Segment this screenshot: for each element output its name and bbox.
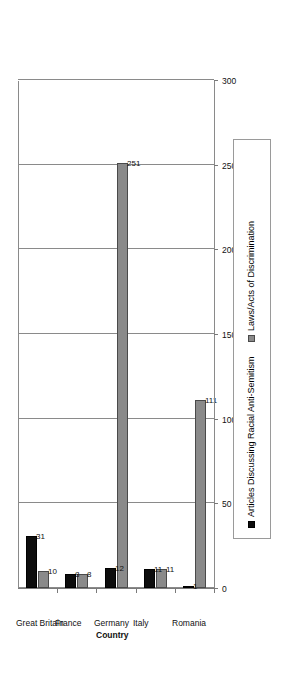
value-tick-mark [214,80,218,81]
value-tick-label: 0 [222,585,227,594]
category-tick [57,588,58,593]
category-label-france: France [55,619,81,628]
bar-germany-series-0 [105,568,116,588]
chart-legend: Articles Discussing Racial Anti-Semitism… [233,139,271,539]
bar-value-label: 251 [127,160,140,168]
legend-item-1[interactable]: Laws/Acts of Discrimination [246,221,256,342]
bar-value-label: 31 [36,533,45,541]
legend-item-0[interactable]: Articles Discussing Racial Anti-Semitism [246,356,256,528]
legend-swatch-icon [248,521,255,528]
bar-value-label: 8 [87,571,91,579]
bar-value-label: 1 [193,583,197,591]
legend-label: Laws/Acts of Discrimination [246,221,256,331]
category-label-germany: Germany [94,619,129,628]
legend-swatch-icon [248,335,255,342]
bar-value-label: 8 [75,571,79,579]
value-tick-mark [214,588,218,589]
bar-value-label: 11 [166,566,174,574]
category-label-italy: Italy [133,619,149,628]
value-tick-label: 300 [222,77,236,86]
value-tick-label: 50 [222,500,231,509]
bar-value-label: 111 [205,397,217,405]
value-tick-mark [214,249,218,250]
bar-germany-series-1 [117,163,128,588]
category-tick [96,588,97,593]
value-tick-mark [214,419,218,420]
category-tick [175,588,176,593]
value-tick-mark [214,334,218,335]
value-axis-line [214,81,215,589]
value-tick-mark [214,165,218,166]
chart-canvas: 3110881225111111111 050100150200250300 F… [0,0,305,677]
bar-value-label: 10 [48,568,57,576]
category-label-romania: Romania [172,619,206,628]
bar-value-label: 12 [115,565,124,573]
value-tick-mark [214,503,218,504]
gridline [18,79,214,80]
plot-area: 3110881225111111111 [18,81,214,589]
plot-top-border [18,81,19,588]
category-tick [136,588,137,593]
legend-label: Articles Discussing Racial Anti-Semitism [246,356,256,517]
category-axis-title: Country [96,631,129,640]
bar-chart-figure: 3110881225111111111 050100150200250300 F… [0,0,305,677]
bar-value-label: 11 [154,566,162,574]
bar-great-britain-series-0 [26,536,37,588]
bar-romania-series-1 [195,400,206,588]
